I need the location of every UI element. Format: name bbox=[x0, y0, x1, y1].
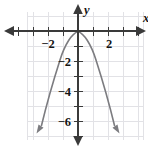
tick-labels: −2 2 −2 −4 −6 bbox=[41, 37, 112, 129]
y-axis-top-arrowhead bbox=[73, 4, 83, 14]
y-axis-label: y bbox=[82, 3, 90, 17]
x-axis-right-arrowhead bbox=[136, 26, 146, 36]
parabola-graph-figure: −2 2 −2 −4 −6 y x bbox=[0, 0, 148, 146]
curve-left-arrowhead bbox=[37, 125, 44, 134]
axes bbox=[4, 4, 146, 146]
x-tick-label-neg2: −2 bbox=[41, 37, 54, 51]
x-axis-left-arrowhead bbox=[4, 26, 14, 36]
curve-right-arrowhead bbox=[113, 125, 120, 134]
y-axis-bottom-arrowhead bbox=[73, 136, 83, 146]
y-tick-label-neg4: −4 bbox=[58, 85, 72, 99]
x-axis-label: x bbox=[142, 11, 148, 25]
y-tick-label-neg6: −6 bbox=[58, 115, 71, 129]
graph-canvas: −2 2 −2 −4 −6 y x bbox=[0, 0, 148, 146]
y-tick-label-neg2: −2 bbox=[58, 55, 71, 69]
x-tick-label-2: 2 bbox=[106, 37, 112, 51]
